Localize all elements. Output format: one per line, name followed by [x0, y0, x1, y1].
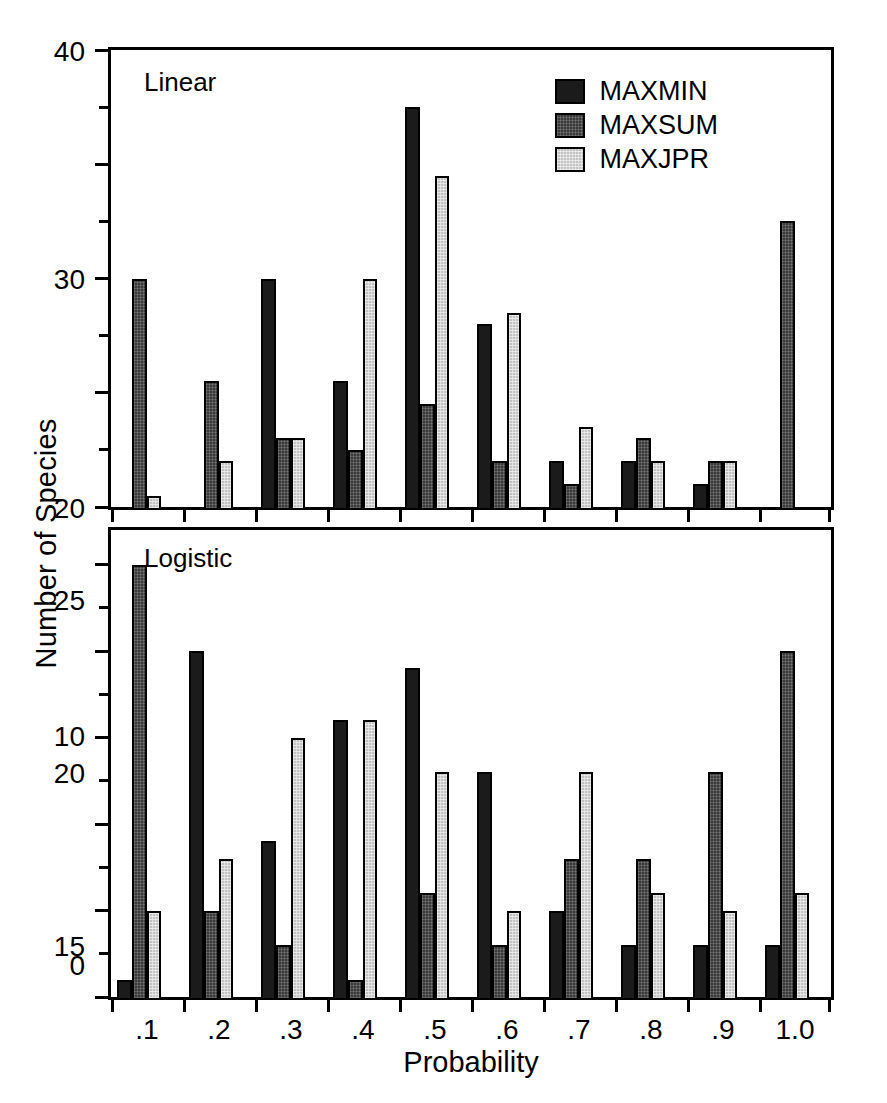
bar-maxmin-.8: [621, 461, 636, 510]
y-tick-major: 10: [95, 823, 108, 826]
x-tick-label: .9: [711, 1014, 734, 1046]
x-tick: [255, 1000, 258, 1012]
bar-maxjpr-.8: [651, 461, 666, 510]
x-tick: [471, 510, 474, 522]
panel-linear: Linear MAXMIN MAXSUM MAXJPR 010203040: [108, 47, 834, 510]
legend-swatch-maxjpr: [555, 147, 585, 172]
x-tick-label: .6: [495, 1014, 518, 1046]
panel-title-linear: Linear: [144, 67, 216, 98]
bar-maxmin-.3: [261, 279, 276, 511]
y-tick-minor: [99, 779, 108, 782]
bar-maxjpr-.1: [147, 911, 162, 1000]
bar-maxsum-.4: [348, 980, 363, 1000]
x-tick: [615, 1000, 618, 1012]
bar-maxmin-.6: [477, 772, 492, 1000]
bar-maxsum-.8: [636, 859, 651, 1000]
y-tick-label: 40: [54, 38, 85, 66]
bar-maxjpr-.4: [363, 720, 378, 1000]
y-tick-minor: [99, 220, 108, 223]
y-tick-major: 20: [95, 650, 108, 653]
bar-maxmin-.4: [333, 720, 348, 1000]
bar-maxmin-.9: [693, 945, 708, 1000]
bar-maxjpr-.9: [723, 911, 738, 1000]
bar-maxjpr-.5: [435, 772, 450, 1000]
y-tick-major: 0: [95, 506, 108, 509]
x-tick: [111, 510, 114, 522]
y-tick-minor: [99, 693, 108, 696]
y-tick-label: 30: [54, 266, 85, 294]
y-tick-minor: [99, 866, 108, 869]
y-tick-major: 5: [95, 909, 108, 912]
bar-maxmin-.4: [333, 381, 348, 510]
y-tick-major: 25: [95, 563, 108, 566]
x-tick: [327, 1000, 330, 1012]
y-tick-major: 15: [95, 736, 108, 739]
bar-maxsum-.9: [708, 772, 723, 1000]
bar-maxsum-.3: [276, 945, 291, 1000]
x-tick: [543, 510, 546, 522]
bar-maxsum-1.0: [780, 651, 795, 1000]
bar-maxmin-.8: [621, 945, 636, 1000]
x-tick: [828, 510, 831, 522]
x-tick-label: .1: [135, 1014, 158, 1046]
bar-maxmin-1.0: [765, 945, 780, 1000]
x-tick: [327, 510, 330, 522]
bar-maxsum-.8: [636, 438, 651, 510]
bar-maxmin-.7: [549, 461, 564, 510]
bar-maxmin-.5: [405, 668, 420, 1000]
x-tick-label: 1.0: [776, 1014, 815, 1046]
x-tick-label: .2: [207, 1014, 230, 1046]
panel-title-logistic: Logistic: [144, 543, 232, 574]
legend-label-maxjpr: MAXJPR: [599, 146, 709, 173]
x-tick: [111, 1000, 114, 1012]
bar-maxsum-.5: [420, 893, 435, 1000]
legend: MAXMIN MAXSUM MAXJPR: [555, 74, 718, 176]
bar-maxsum-.6: [492, 945, 507, 1000]
x-tick: [687, 510, 690, 522]
legend-item-maxjpr: MAXJPR: [555, 142, 718, 176]
bar-maxjpr-.6: [507, 313, 522, 510]
panel-logistic: Logistic 0510152025.1.2.3.4.5.6.7.8.91.0: [108, 527, 834, 1000]
bar-maxsum-.7: [564, 859, 579, 1000]
bar-maxjpr-.8: [651, 893, 666, 1000]
x-tick: [399, 1000, 402, 1012]
bar-maxjpr-.3: [291, 438, 306, 510]
bar-maxjpr-.3: [291, 738, 306, 1000]
y-tick-label: 20: [54, 495, 85, 523]
bar-maxmin-.6: [477, 324, 492, 510]
bar-maxsum-.9: [708, 461, 723, 510]
bar-maxjpr-.2: [219, 859, 234, 1000]
y-tick-minor: [99, 448, 108, 451]
x-tick: [615, 510, 618, 522]
y-tick-major: 0: [95, 996, 108, 999]
x-tick: [471, 1000, 474, 1012]
x-tick: [183, 510, 186, 522]
y-tick-label: 25: [54, 587, 85, 615]
bar-maxmin-.7: [549, 911, 564, 1000]
bar-maxmin-.3: [261, 841, 276, 1000]
y-tick-major: 40: [95, 49, 108, 52]
legend-swatch-maxsum: [555, 113, 585, 138]
x-tick: [759, 510, 762, 522]
x-tick: [183, 1000, 186, 1012]
y-tick-minor: [99, 334, 108, 337]
x-tick: [828, 1000, 831, 1012]
x-tick-label: .3: [279, 1014, 302, 1046]
bar-maxjpr-.4: [363, 279, 378, 511]
bar-maxsum-.1: [132, 279, 147, 511]
x-tick-label: .4: [351, 1014, 374, 1046]
bar-maxjpr-.5: [435, 176, 450, 510]
x-tick-label: .5: [423, 1014, 446, 1046]
x-tick: [255, 510, 258, 522]
bar-maxsum-.2: [204, 911, 219, 1000]
bar-maxsum-.3: [276, 438, 291, 510]
bar-series-logistic: [108, 527, 834, 1000]
bar-maxjpr-.6: [507, 911, 522, 1000]
y-tick-major: 30: [95, 163, 108, 166]
legend-item-maxmin: MAXMIN: [555, 74, 718, 108]
bar-maxjpr-1.0: [795, 893, 810, 1000]
x-tick-label: .7: [567, 1014, 590, 1046]
legend-label-maxmin: MAXMIN: [599, 78, 707, 105]
y-tick-label: 20: [54, 760, 85, 788]
x-tick: [543, 1000, 546, 1012]
